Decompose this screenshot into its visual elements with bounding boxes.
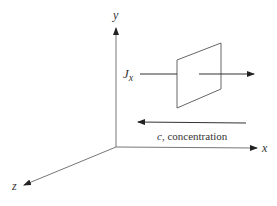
flux-subscript: x (128, 72, 134, 83)
diffusion-diagram: y x z Jx c, concentration (0, 0, 277, 206)
concentration-text: , concentration (162, 130, 228, 142)
flux-label: Jx (123, 66, 134, 83)
z-axis (24, 147, 116, 185)
unit-area-plane (177, 43, 221, 108)
concentration-label: c, concentration (157, 130, 228, 142)
y-axis-label: y (112, 8, 119, 22)
z-axis-label: z (11, 179, 17, 193)
x-axis (116, 147, 257, 148)
concentration-arrow (138, 122, 246, 123)
x-axis-label: x (261, 141, 268, 155)
